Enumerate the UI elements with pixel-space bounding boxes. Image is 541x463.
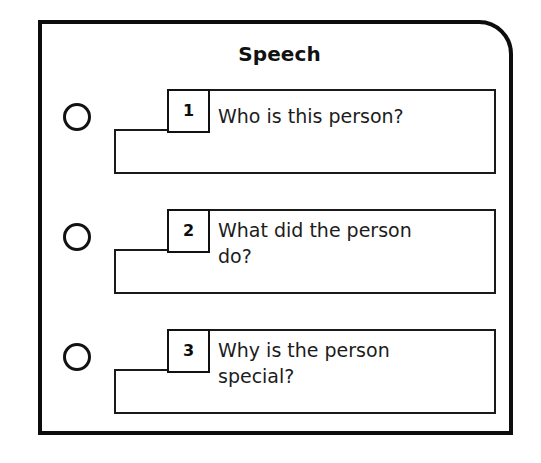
bullet-circle-icon[interactable] xyxy=(63,343,91,371)
answer-box-step-edge xyxy=(114,249,116,294)
answer-box-notch xyxy=(112,206,172,251)
question-text: Who is this person? xyxy=(218,103,480,129)
bullet-circle-icon[interactable] xyxy=(63,223,91,251)
answer-box-step-edge xyxy=(114,129,116,174)
speech-panel: Speech 1 Who is this person? 2 What did … xyxy=(38,20,513,435)
question-text: Why is the person special? xyxy=(218,337,480,389)
answer-box-step-edge xyxy=(114,369,116,414)
answer-box-notch xyxy=(112,326,172,371)
question-number-box: 1 xyxy=(167,89,210,133)
worksheet-root: Speech 1 Who is this person? 2 What did … xyxy=(0,0,541,463)
question-row: 3 Why is the person special? xyxy=(42,329,517,421)
question-text: What did the person do? xyxy=(218,217,480,269)
question-row: 1 Who is this person? xyxy=(42,89,517,181)
question-row: 2 What did the person do? xyxy=(42,209,517,301)
question-number-box: 2 xyxy=(167,209,210,253)
page-title: Speech xyxy=(42,44,517,64)
answer-box-notch xyxy=(112,86,172,131)
question-number-box: 3 xyxy=(167,329,210,373)
bullet-circle-icon[interactable] xyxy=(63,103,91,131)
